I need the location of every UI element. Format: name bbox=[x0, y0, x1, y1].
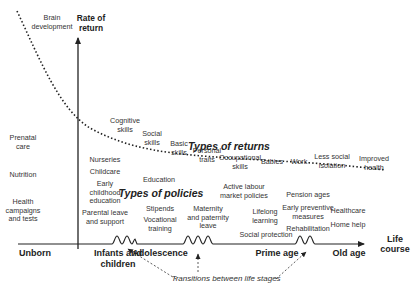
policy-type-label: Healthcare bbox=[331, 207, 366, 216]
policy-type-label: Health campaigns and tests bbox=[6, 198, 41, 224]
life-stage-label: Unborn bbox=[19, 248, 51, 259]
life-stage-label: Old age bbox=[332, 248, 365, 259]
policy-type-label: Pension ages bbox=[286, 191, 330, 200]
return-type-label: Improved health bbox=[359, 155, 389, 172]
policy-type-label: Vocational training bbox=[143, 216, 176, 233]
policy-type-label: Nutrition bbox=[10, 171, 37, 180]
x-axis-label: Life course bbox=[380, 234, 410, 254]
return-type-label: Babies bbox=[261, 158, 283, 167]
policy-type-label: Social protection bbox=[239, 231, 292, 240]
return-type-label: Occupational skills bbox=[219, 154, 261, 171]
policy-type-label: Maternity and paternity leave bbox=[187, 205, 229, 231]
life-stage-label: Prime age bbox=[255, 248, 298, 259]
policy-type-label: Active labour market policies bbox=[220, 183, 268, 200]
policy-type-label: Early preventive measures bbox=[282, 204, 334, 221]
policy-type-label: Stipends bbox=[146, 205, 174, 214]
life-stage-label: Adolescence bbox=[132, 248, 188, 259]
x-axis bbox=[18, 236, 364, 244]
policies-section-title: Types of policies bbox=[119, 187, 204, 199]
return-type-label: Work bbox=[291, 158, 308, 167]
return-type-label: Basic skills bbox=[170, 140, 188, 157]
policy-type-label: Childcare bbox=[90, 168, 120, 177]
y-axis-label: Rate of return bbox=[77, 13, 105, 33]
return-type-label: Social skills bbox=[142, 130, 162, 147]
policy-type-label: Rehabilitation bbox=[286, 225, 330, 234]
policy-type-label: Parental leave and support bbox=[82, 209, 128, 226]
policy-type-label: Home help bbox=[331, 221, 366, 230]
policy-type-label: Education bbox=[143, 176, 175, 185]
return-type-label: Cognitive skills bbox=[110, 117, 140, 134]
return-type-label: Personal traits bbox=[193, 147, 221, 164]
return-type-label: Less social isolation bbox=[314, 153, 350, 170]
policy-type-label: Nurseries bbox=[90, 156, 121, 165]
return-type-label: Brain development bbox=[31, 14, 72, 31]
transitions-label: Transitions between life stages bbox=[171, 274, 280, 283]
policy-type-label: Prenatal care bbox=[10, 134, 37, 151]
policy-type-label: Early childhood education bbox=[89, 180, 120, 206]
policy-type-label: Lifelong learning bbox=[252, 208, 278, 225]
